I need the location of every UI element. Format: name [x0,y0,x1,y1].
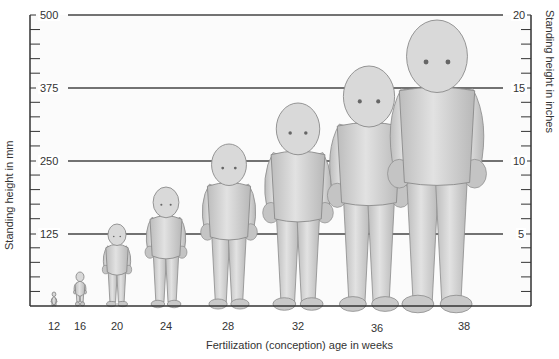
y-right-tick-5: 5 [516,228,526,240]
x-tick-38: 38 [458,320,470,332]
x-tick-24: 24 [160,320,172,332]
y-right-tick-10: 10 [511,155,527,167]
y-left-tick-500: 500 [38,9,60,21]
y-right-tick-15: 15 [511,82,527,94]
x-tick-28: 28 [222,320,234,332]
y-left-tick-375: 375 [38,82,60,94]
y-axis-left-title: Standing height in mm [3,141,15,250]
y-right-tick-20: 20 [511,9,527,21]
x-tick-16: 16 [74,320,86,332]
x-tick-12: 12 [48,320,60,332]
y-left-tick-250: 250 [38,155,60,167]
y-axis-right-title: Standing height in inches [544,10,556,133]
x-tick-20: 20 [111,320,123,332]
fetus-figure-week-12 [51,292,57,306]
y-left-tick-125: 125 [38,228,60,240]
x-tick-36: 36 [371,322,383,334]
plot-area [0,0,559,359]
x-tick-32: 32 [292,320,304,332]
x-axis-title: Fertilization (conception) age in weeks [0,339,559,351]
fetal-growth-chart: 500 375 250 125 20 15 10 5 Standing heig… [0,0,559,359]
